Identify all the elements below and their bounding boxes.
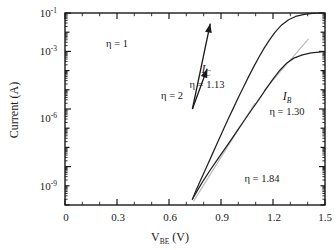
x-tick-label-5: 1.5 [318,211,332,223]
y-tick-label-4: 10-9 [40,179,57,192]
fit-ideality-label: η = 1.84 [244,173,280,184]
eta-1-label: η = 1 [106,38,128,49]
y-tick-label-1: 10-1 [40,6,57,19]
ib-ideality-label: η = 1.30 [269,106,304,117]
ic-ideality-label: η = 1.13 [189,79,224,90]
ic-label: IC [200,62,211,78]
x-tick-label-0: 0 [63,211,69,223]
x-tick-label-3: 0.9 [215,211,229,223]
x-tick-label-2: 0.6 [163,211,177,223]
curve-annotations: IC η = 1.13 IB η = 1.30 η = 1.84 η = 1 η… [106,38,304,184]
figure-container: 10-1 10-3 10-6 10-9 0 0.3 0.6 0.9 1.2 1.… [0,0,336,250]
y-tick-label-2: 10-3 [40,44,57,57]
x-tick-label-4: 1.2 [267,211,281,223]
y-tick-label-3: 10-6 [40,111,57,124]
x-tick-label-1: 0.3 [111,211,125,223]
y-tick-labels: 10-1 10-3 10-6 10-9 [40,6,57,192]
x-axis-title: VBE (V) [151,230,189,246]
current-vs-vbe-chart: 10-1 10-3 10-6 10-9 0 0.3 0.6 0.9 1.2 1.… [0,0,336,250]
y-axis-title: Current (A) [7,82,21,138]
slope-arrow-head-1 [205,24,212,34]
ib-label: IB [282,89,292,105]
eta-2-label: η = 2 [161,90,183,101]
x-tick-labels: 0 0.3 0.6 0.9 1.2 1.5 [63,211,332,223]
